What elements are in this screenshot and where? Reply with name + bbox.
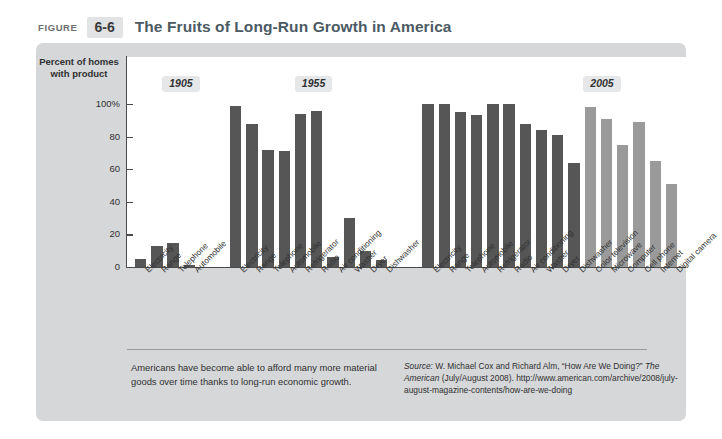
bar bbox=[471, 115, 482, 267]
figure-source: Source: W. Michael Cox and Richard Alm, … bbox=[404, 360, 679, 396]
source-label: Source: bbox=[404, 361, 433, 371]
y-tick-label: 0 bbox=[36, 261, 120, 272]
figure-caption: Americans have become able to afford man… bbox=[131, 361, 381, 388]
y-tick-label: 100% bbox=[36, 98, 120, 109]
bar bbox=[246, 124, 257, 267]
source-text: W. Michael Cox and Richard Alm, “How Are… bbox=[433, 361, 645, 371]
y-tick-label: 40 bbox=[36, 196, 120, 207]
figure-title: The Fruits of Long-Run Growth in America bbox=[135, 18, 452, 36]
x-axis-labels: ElectricityRangeTelephoneAutomobileElect… bbox=[127, 268, 697, 338]
bar bbox=[536, 130, 547, 267]
source-rest: (July/August 2008). http://www.american.… bbox=[404, 373, 678, 395]
caption-divider bbox=[127, 349, 647, 350]
figure-header: Figure 6-6 The Fruits of Long-Run Growth… bbox=[0, 14, 722, 40]
bar bbox=[568, 163, 579, 267]
figure-number-badge: 6-6 bbox=[87, 17, 123, 38]
y-axis-title: Percent of homes with product bbox=[36, 56, 122, 79]
y-tick-label: 60 bbox=[36, 163, 120, 174]
y-tick-label: 80 bbox=[36, 131, 120, 142]
figure-word: Figure bbox=[38, 22, 78, 33]
bar bbox=[422, 104, 433, 267]
bar bbox=[439, 104, 450, 267]
bar-series bbox=[127, 57, 686, 267]
bar bbox=[585, 107, 596, 267]
y-tick-label: 20 bbox=[36, 228, 120, 239]
bar bbox=[230, 106, 241, 267]
